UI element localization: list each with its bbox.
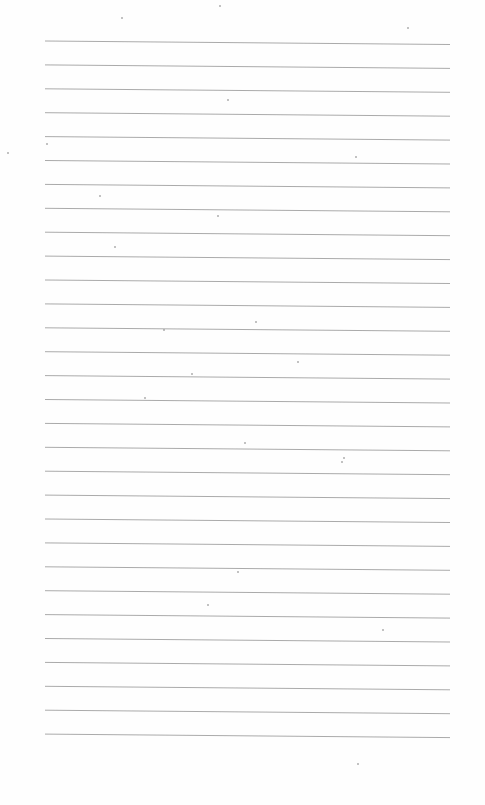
ruled-lines [0, 0, 485, 805]
ruled-line [45, 161, 450, 165]
ruled-line [45, 232, 450, 236]
paper-speckle [255, 321, 257, 323]
ruled-line [45, 423, 450, 427]
paper-speckle [244, 442, 246, 444]
ruled-line [45, 184, 450, 188]
paper-speckle [144, 397, 146, 399]
ruled-line [45, 543, 450, 547]
paper-speckle [219, 5, 221, 7]
ruled-line [45, 89, 450, 93]
ruled-line [45, 567, 450, 571]
paper-speckle [99, 195, 101, 197]
ruled-line [45, 256, 450, 260]
paper-speckle [237, 571, 239, 573]
ruled-line [45, 710, 450, 714]
ruled-line [45, 471, 450, 475]
ruled-line [45, 495, 450, 499]
ruled-line [45, 65, 450, 69]
paper-speckle [343, 457, 345, 459]
paper-speckle [355, 156, 357, 158]
paper-speckle [191, 373, 193, 375]
paper-speckle [121, 17, 123, 19]
paper-speckle [7, 152, 9, 154]
ruled-line [45, 113, 450, 117]
paper-speckle [357, 763, 359, 765]
ruled-line [45, 686, 450, 690]
ruled-line [45, 304, 450, 308]
ruled-line [45, 137, 450, 141]
ruled-line [45, 376, 450, 380]
paper-speckle [297, 361, 299, 363]
paper-speckle [382, 629, 384, 631]
paper-speckle [341, 461, 343, 463]
paper-speckle [46, 143, 48, 145]
paper-speckle [227, 99, 229, 101]
ruled-line [45, 41, 450, 45]
paper-speckle [163, 329, 165, 331]
ruled-line [45, 352, 450, 356]
ruled-line [45, 734, 450, 738]
paper-speckle [114, 246, 116, 248]
ruled-line [45, 447, 450, 451]
ruled-line [45, 615, 450, 619]
paper-speckle [217, 215, 219, 217]
ruled-line [45, 662, 450, 666]
ruled-line [45, 519, 450, 523]
paper-speckle [407, 27, 409, 29]
ruled-line [45, 280, 450, 284]
ruled-line [45, 328, 450, 332]
ruled-line [45, 639, 450, 643]
paper-speckle [207, 604, 209, 606]
ruled-line [45, 208, 450, 212]
lined-paper-sheet [0, 0, 485, 805]
ruled-line [45, 400, 450, 404]
ruled-line [45, 591, 450, 595]
